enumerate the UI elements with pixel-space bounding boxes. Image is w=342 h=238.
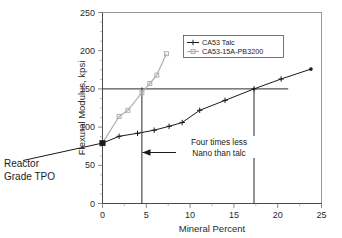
y-tick-label-0: 0 [90, 199, 95, 209]
callout-line-2: Grade TPO [4, 171, 55, 182]
chart-canvas: 0 50 100 150 200 250 0 5 10 15 20 25 [0, 0, 342, 238]
x-tick-label-10: 10 [185, 210, 195, 220]
x-tick-label-20: 20 [273, 210, 283, 220]
origin-data-marker [100, 140, 105, 145]
chart-figure: 0 50 100 150 200 250 0 5 10 15 20 25 [0, 0, 342, 238]
x-tick-label-15: 15 [229, 210, 239, 220]
callout-line-1: Reactor [4, 158, 40, 169]
x-tick-label-5: 5 [144, 210, 149, 220]
y-tick-label-50: 50 [85, 160, 95, 170]
legend[interactable]: CA53 Talc CA53-15A-PB3200 [184, 36, 284, 58]
series-markers-nano [117, 52, 168, 119]
x-tick-label-0: 0 [100, 210, 105, 220]
x-tick-label-25: 25 [316, 210, 326, 220]
annotation-line-2: Nano than talc [192, 148, 246, 158]
x-axis-title: Mineral Percent [179, 223, 246, 234]
legend-label-nano: CA53-15A-PB3200 [202, 47, 263, 56]
legend-label-talc: CA53 Talc [202, 38, 235, 47]
annotation-line-1: Four times less [191, 137, 247, 147]
y-tick-label-250: 250 [80, 8, 95, 18]
y-axis-title: Flexural Modulus, kpsi [76, 61, 87, 156]
y-tick-label-200: 200 [80, 46, 95, 56]
series-line-talc [103, 69, 311, 143]
